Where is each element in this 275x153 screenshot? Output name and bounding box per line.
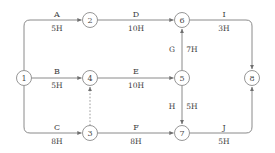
edge-duration-H: 5H <box>186 102 198 111</box>
node-4[interactable]: 4 <box>83 71 98 86</box>
edge-duration-J: 5H <box>218 137 230 146</box>
node-3-label: 3 <box>87 129 92 138</box>
node-2-label: 2 <box>87 16 92 25</box>
node-1[interactable]: 1 <box>17 71 32 86</box>
network-diagram-canvas: A 5H B 5H C 8H D 10H E 10H F 8H G 7H H 5… <box>0 0 275 153</box>
edge-label-G: G <box>169 45 175 54</box>
edge-label-J: J <box>221 123 225 132</box>
node-8-label: 8 <box>249 74 254 83</box>
edge-duration-D: 10H <box>128 24 145 33</box>
node-6[interactable]: 6 <box>175 13 190 28</box>
edge-duration-G: 7H <box>186 45 198 54</box>
network-diagram-svg: A 5H B 5H C 8H D 10H E 10H F 8H G 7H H 5… <box>0 0 275 153</box>
edge-duration-B: 5H <box>51 81 63 90</box>
edge-path-C <box>24 86 82 134</box>
node-1-label: 1 <box>21 74 26 83</box>
edge-label-C: C <box>54 123 60 132</box>
edge-label-H: H <box>169 102 176 111</box>
node-7[interactable]: 7 <box>175 126 190 141</box>
edge-duration-I: 3H <box>218 24 230 33</box>
edge-label-D: D <box>133 10 139 19</box>
edge-label-F: F <box>133 123 139 132</box>
edge-label-I: I <box>222 10 225 19</box>
edge-path-J <box>190 87 253 133</box>
node-8[interactable]: 8 <box>245 71 260 86</box>
node-4-label: 4 <box>87 74 92 83</box>
edge-group <box>24 20 252 133</box>
edge-duration-E: 10H <box>128 81 145 90</box>
node-5-label: 5 <box>179 74 184 83</box>
edge-label-E: E <box>133 67 139 76</box>
edge-label-A: A <box>53 10 60 19</box>
node-3[interactable]: 3 <box>83 126 98 141</box>
node-5[interactable]: 5 <box>175 71 190 86</box>
node-6-label: 6 <box>179 16 184 25</box>
node-7-label: 7 <box>179 129 184 138</box>
edge-duration-C: 8H <box>51 137 63 146</box>
edge-duration-F: 8H <box>130 137 142 146</box>
edge-label-B: B <box>54 67 60 76</box>
node-2[interactable]: 2 <box>83 13 98 28</box>
edge-duration-A: 5H <box>51 24 63 33</box>
